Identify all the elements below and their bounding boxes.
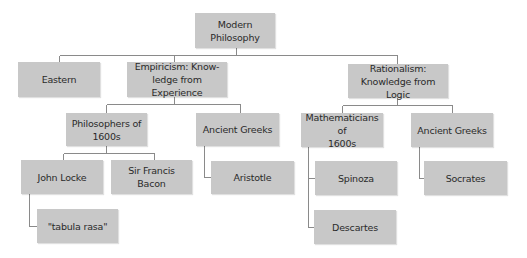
node-modern-philosophy: Modern Philosophy (195, 13, 275, 48)
node-ancient-greeks-empiricism: Ancient Greeks (196, 113, 279, 146)
node-tabula-rasa: "tabula rasa" (37, 209, 118, 243)
node-label: Sir Francis Bacon (114, 164, 189, 190)
node-label: Philosophers of 1600s (72, 117, 142, 143)
node-label: Empiricism: Know- ledge from Experience (130, 60, 224, 99)
node-rationalism: Rationalism: Knowledge from Logic (348, 64, 448, 98)
philosophy-hierarchy-diagram: Modern Philosophy Eastern Empiricism: Kn… (0, 0, 527, 258)
node-mathematicians-1600s: Mathematicians of 1600s (301, 113, 383, 147)
node-label: Spinoza (338, 172, 374, 185)
node-label: Ancient Greeks (417, 124, 486, 137)
node-ancient-greeks-rationalism: Ancient Greeks (411, 113, 493, 147)
node-label: Modern Philosophy (210, 18, 259, 44)
node-label: Mathematicians of 1600s (304, 111, 380, 150)
node-eastern: Eastern (18, 62, 100, 97)
connector-empiricism-children (107, 97, 241, 113)
node-label: Aristotle (234, 171, 272, 184)
node-label: Ancient Greeks (203, 123, 272, 136)
node-socrates: Socrates (424, 161, 507, 195)
node-label: John Locke (38, 171, 87, 184)
node-john-locke: John Locke (21, 160, 103, 194)
node-philosophers-1600s: Philosophers of 1600s (66, 113, 147, 146)
node-label: Eastern (42, 73, 77, 86)
node-label: Rationalism: Knowledge from Logic (351, 62, 445, 101)
node-spinoza: Spinoza (315, 161, 397, 195)
node-label: "tabula rasa" (48, 220, 108, 233)
node-aristotle: Aristotle (211, 161, 294, 194)
node-empiricism: Empiricism: Know- ledge from Experience (127, 62, 227, 97)
node-descartes: Descartes (314, 210, 396, 244)
connector-philosophers-children (64, 146, 155, 160)
node-label: Descartes (332, 221, 378, 234)
node-label: Socrates (446, 172, 486, 185)
connector-locke-tabula-rasa (30, 194, 38, 227)
node-francis-bacon: Sir Francis Bacon (111, 160, 192, 194)
connector-root-to-level1 (60, 48, 398, 64)
